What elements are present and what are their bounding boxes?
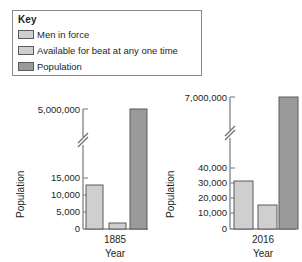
chart-2016-y-axis-title: Population [165,171,176,218]
chart-1885-ytick-15000: 15,000 [51,172,80,183]
chart-2016-bar-population [279,97,298,229]
legend-swatch-available-for-beat [18,46,34,55]
bar-chart-1885: Population 5,000,000 15,000 10,000 5,000… [2,88,152,262]
chart-1885-ytick-5000: 5,000 [56,206,80,217]
chart-2016-ytick-7000000: 7,000,000 [185,92,227,103]
chart-2016-bar-men-in-force [234,181,253,229]
legend-item-available-for-beat: Available for beat at any one time [18,42,196,58]
chart-2016-ytick-40000: 40,000 [198,162,227,173]
chart-2016-ytick-30000: 30,000 [198,177,227,188]
chart-1885-ytick-5000000: 5,000,000 [38,104,80,115]
chart-2016-category-label: 2016 [252,234,275,245]
chart-1885-svg: Population 5,000,000 15,000 10,000 5,000… [2,88,152,262]
chart-2016-ytick-10000: 10,000 [198,207,227,218]
chart-2016-bar-available-for-beat [258,205,277,229]
chart-1885-x-axis-title: Year [105,248,126,259]
chart-2016-x-axis-title: Year [253,248,274,259]
legend-label-available-for-beat: Available for beat at any one time [37,45,178,56]
chart-2016-ytick-0: 0 [222,223,227,234]
chart-1885-category-label: 1885 [104,234,127,245]
chart-1885-bar-available-for-beat [109,223,126,229]
key-title: Key [18,14,196,26]
legend-label-men-in-force: Men in force [37,29,89,40]
chart-1885-ytick-0: 0 [75,223,80,234]
chart-2016-ytick-20000: 20,000 [198,192,227,203]
chart-1885-bar-men-in-force [86,185,103,229]
legend-swatch-men-in-force [18,30,34,39]
chart-2016-svg: Population 7,000,000 40,000 30,000 20,00… [152,88,302,262]
chart-1885-bar-population [130,109,147,229]
chart-1885-ytick-10000: 10,000 [51,189,80,200]
bar-chart-2016: Population 7,000,000 40,000 30,000 20,00… [152,88,302,262]
legend-item-population: Population [18,58,196,74]
legend-swatch-population [18,62,34,71]
chart-1885-y-axis-title: Population [15,171,26,218]
legend-item-men-in-force: Men in force [18,26,196,42]
key-legend-box: Key Men in force Available for beat at a… [12,10,202,76]
legend-label-population: Population [37,61,82,72]
